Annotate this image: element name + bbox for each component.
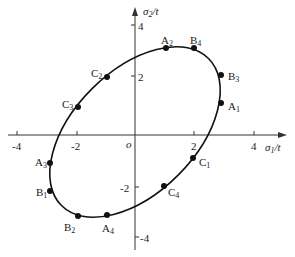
- origin-label: o: [126, 138, 132, 150]
- point-c1: [190, 155, 196, 161]
- point-b3: [218, 72, 224, 78]
- label-b4: B4: [190, 34, 201, 48]
- y-axis-arrow: [132, 7, 138, 16]
- label-a4: A4: [102, 222, 114, 236]
- label-b1: B1: [36, 186, 47, 200]
- y-tick-label: 4: [138, 20, 144, 32]
- label-c1: C1: [199, 156, 210, 170]
- y-tick-label: 2: [138, 71, 144, 83]
- point-b1: [47, 188, 53, 194]
- label-c4: C4: [168, 186, 179, 200]
- x-tick-label: 2: [191, 140, 197, 152]
- label-c3: C3: [62, 98, 73, 112]
- x-tick-label: -2: [71, 140, 80, 152]
- label-a3: A3: [35, 156, 47, 170]
- ellipse-diagram: -4 -2 2 4 4 2 -2 -4 o σ1/t σ2/t A1: [0, 0, 295, 257]
- label-a2: A2: [161, 34, 173, 48]
- x-axis-arrow: [278, 132, 287, 138]
- label-c2: C2: [91, 67, 102, 81]
- label-a1: A1: [228, 100, 240, 114]
- label-b2: B2: [64, 221, 75, 235]
- point-c2: [104, 74, 110, 80]
- point-c3: [75, 104, 81, 110]
- point-b2: [75, 213, 81, 219]
- y-tick-label: -2: [120, 182, 129, 194]
- x-tick-label: -4: [12, 140, 22, 152]
- x-axis-label: σ1/t: [265, 141, 281, 155]
- y-tick-label: -4: [140, 232, 150, 244]
- y-axis-label: σ2/t: [143, 5, 159, 19]
- point-a1: [218, 100, 224, 106]
- label-b3: B3: [228, 70, 239, 84]
- point-a4: [104, 212, 110, 218]
- point-c4: [161, 183, 167, 189]
- x-tick-label: 4: [251, 140, 257, 152]
- point-a3: [47, 160, 53, 166]
